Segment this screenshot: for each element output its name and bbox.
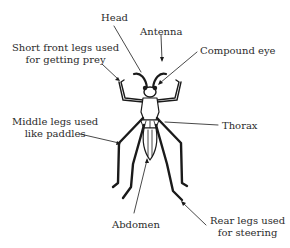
rear-legs-label-line1: Rear legs used xyxy=(210,215,285,227)
abdomen-label: Abdomen xyxy=(112,219,160,231)
antenna-pointer xyxy=(161,35,162,60)
front-legs-label-line1: Short front legs used xyxy=(12,42,119,54)
front-legs-pointer xyxy=(102,64,118,79)
middle-legs-label-line1: Middle legs used xyxy=(12,116,98,128)
front-legs-label: Short front legs used for getting prey xyxy=(12,42,119,66)
front-legs-label-line2: for getting prey xyxy=(12,54,119,66)
compound-eye-label: Compound eye xyxy=(200,45,276,57)
abdomen-pointer xyxy=(134,160,147,213)
rear-legs-label-line2: for steering xyxy=(210,227,285,239)
eye-pointer xyxy=(160,52,197,83)
rear-legs-label: Rear legs used for steering xyxy=(210,215,285,239)
antenna-label: Antenna xyxy=(140,26,182,38)
thorax-pointer xyxy=(165,122,218,125)
left-eye xyxy=(143,86,147,90)
rear-legs-pointer xyxy=(183,203,206,225)
thorax-shape xyxy=(141,98,159,120)
middle-legs-label-line2: like paddles xyxy=(12,128,98,140)
right-eye xyxy=(153,86,157,90)
middle-legs-label: Middle legs used like paddles xyxy=(12,116,98,140)
antennae xyxy=(134,74,166,88)
thorax-label: Thorax xyxy=(222,120,258,132)
abdomen-shape xyxy=(143,128,157,160)
head-label: Head xyxy=(101,12,128,24)
insect-anatomy-diagram: Head Antenna Compound eye Short front le… xyxy=(0,0,290,248)
